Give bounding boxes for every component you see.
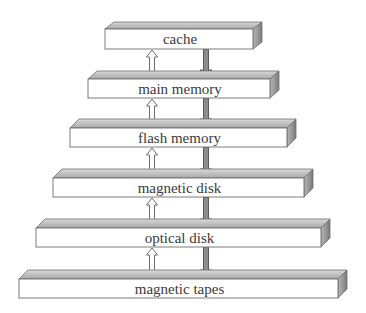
level-cache: cache <box>105 22 262 49</box>
level-label: cache <box>163 31 197 47</box>
level-magnetic-disk: magnetic disk <box>53 169 313 197</box>
level-label: optical disk <box>145 230 215 246</box>
slab-top-face <box>105 22 262 29</box>
level-flash-memory: flash memory <box>70 119 296 147</box>
slab-top-face <box>70 119 296 128</box>
level-label: magnetic disk <box>138 180 222 196</box>
level-label: magnetic tapes <box>135 281 225 297</box>
hierarchy-levels: cachemain memoryflash memorymagnetic dis… <box>19 22 347 298</box>
level-magnetic-tapes: magnetic tapes <box>19 270 347 298</box>
slab-top-face <box>53 169 313 178</box>
slab-top-face <box>19 270 347 279</box>
slab-top-face <box>88 71 279 79</box>
level-label: flash memory <box>138 130 221 146</box>
level-label: main memory <box>138 81 222 97</box>
slab-top-face <box>36 219 330 228</box>
level-optical-disk: optical disk <box>36 219 330 247</box>
storage-hierarchy-diagram: cachemain memoryflash memorymagnetic dis… <box>0 0 366 313</box>
level-main-memory: main memory <box>88 71 279 98</box>
